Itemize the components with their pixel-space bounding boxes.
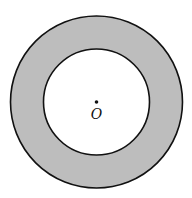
center-point — [95, 100, 99, 104]
center-label: O — [91, 106, 103, 122]
annulus-diagram: O — [0, 0, 192, 198]
diagram-canvas: O — [0, 0, 192, 198]
